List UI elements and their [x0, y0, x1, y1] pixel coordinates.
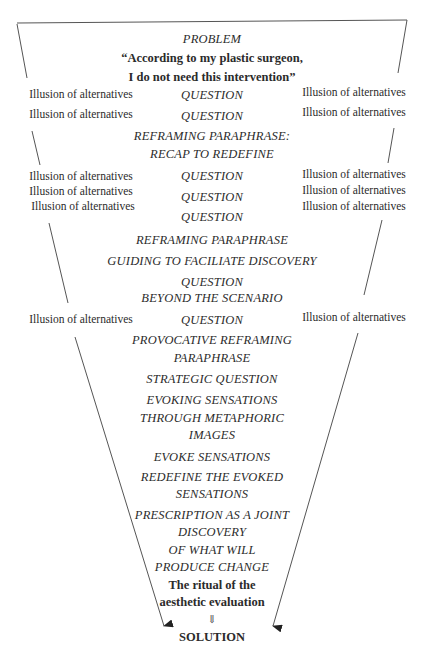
- step-beyond-scenario: BEYOND THE SCENARIO: [0, 291, 424, 305]
- right-illusion-label: Illusion of alternatives: [300, 200, 408, 213]
- step-produce-change: PRODUCE CHANGE: [0, 560, 424, 574]
- step-evoke-sensations: EVOKE SENSATIONS: [0, 450, 424, 464]
- problem-label: PROBLEM: [0, 32, 424, 46]
- problem-quote-line1: “According to my plastic surgeon,: [0, 51, 424, 65]
- right-illusion-label: Illusion of alternatives: [300, 311, 408, 324]
- step-images: IMAGES: [0, 428, 424, 442]
- step-sensations: SENSATIONS: [0, 487, 424, 501]
- solution-label: SOLUTION: [0, 630, 424, 644]
- left-illusion-label: Illusion of alternatives: [18, 170, 144, 183]
- ritual-line2: aesthetic evaluation: [0, 595, 424, 609]
- step-strategic-question: STRATEGIC QUESTION: [0, 372, 424, 386]
- right-illusion-label: Illusion of alternatives: [300, 86, 408, 99]
- ritual-line1: The ritual of the: [0, 578, 424, 592]
- step-redefine-evoked: REDEFINE THE EVOKED: [0, 470, 424, 484]
- step-of-what-will: OF WHAT WILL: [0, 543, 424, 557]
- funnel-right-edge-1: [398, 20, 407, 73]
- step-provocative-reframing: PROVOCATIVE REFRAMING: [0, 333, 424, 347]
- step-prescription: PRESCRIPTION AS A JOINT: [0, 508, 424, 522]
- step-discovery: DISCOVERY: [0, 525, 424, 539]
- step-evoking-sensations: EVOKING SENSATIONS: [0, 393, 424, 407]
- right-illusion-label: Illusion of alternatives: [300, 106, 408, 119]
- step-paraphrase: PARAPHRASE: [0, 351, 424, 365]
- funnel-top-edge: [17, 20, 407, 23]
- left-illusion-label: Illusion of alternatives: [18, 108, 144, 121]
- step-guiding-discovery: GUIDING TO FACILIATE DISCOVERY: [0, 254, 424, 268]
- step-reframing-paraphrase: REFRAMING PARAPHRASE: [0, 233, 424, 247]
- right-illusion-label: Illusion of alternatives: [300, 168, 408, 181]
- step-reframing-paraphrase: REFRAMING PARAPHRASE:: [0, 129, 424, 143]
- double-down-arrow-icon: ⇓: [0, 612, 424, 626]
- step-through-metaphoric: THROUGH METAPHORIC: [0, 411, 424, 425]
- left-illusion-label: Illusion of alternatives: [18, 88, 144, 101]
- left-illusion-label: Illusion of alternatives: [18, 185, 144, 198]
- step-question: QUESTION: [0, 275, 424, 289]
- right-illusion-label: Illusion of alternatives: [300, 184, 408, 197]
- left-illusion-label: Illusion of alternatives: [18, 313, 144, 326]
- problem-quote-line2: I do not need this intervention”: [0, 70, 424, 84]
- step-recap-to-redefine: RECAP TO REDEFINE: [0, 147, 424, 161]
- left-illusion-label: Illusion of alternatives: [20, 200, 146, 213]
